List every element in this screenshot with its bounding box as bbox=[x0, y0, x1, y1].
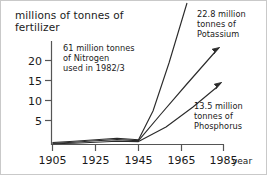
annotation-nitrogen-line3: used in 1982/3 bbox=[63, 63, 125, 73]
annotation-nitrogen-line2: of Nitrogen bbox=[63, 53, 109, 63]
y-tick-label-20: 20 bbox=[28, 55, 42, 68]
series-line-phosphorus bbox=[53, 87, 218, 144]
annotation-nitrogen-line1: 61 million tonnes bbox=[63, 43, 135, 53]
chart-title-line2: fertilizer bbox=[15, 21, 60, 33]
fertilizer-line-chart: millions of tonnes of fertilizer 20 15 1… bbox=[1, 1, 267, 175]
x-tick-label-1905: 1905 bbox=[39, 154, 67, 167]
y-tick-label-5: 5 bbox=[35, 115, 42, 128]
x-tick-label-1945: 1945 bbox=[125, 154, 153, 167]
y-tick-label-10: 10 bbox=[28, 95, 42, 108]
y-tick-label-15: 15 bbox=[28, 75, 42, 88]
x-tick-label-1925: 1925 bbox=[82, 154, 110, 167]
x-axis-name: year bbox=[232, 156, 252, 166]
annotation-phosphorus-line3: Phosphorus bbox=[194, 121, 242, 131]
annotation-potassium-line3: Potassium bbox=[197, 29, 239, 39]
x-tick-label-1965: 1965 bbox=[168, 154, 196, 167]
annotation-phosphorus-line1: 13.5 million bbox=[194, 101, 243, 111]
annotation-potassium-line2: tonnes of bbox=[197, 19, 237, 29]
annotation-potassium-line1: 22.8 million bbox=[197, 9, 246, 19]
chart-title-line1: millions of tonnes of bbox=[15, 9, 124, 21]
annotation-phosphorus-line2: tonnes of bbox=[194, 111, 234, 121]
chart-frame: millions of tonnes of fertilizer 20 15 1… bbox=[0, 0, 267, 175]
